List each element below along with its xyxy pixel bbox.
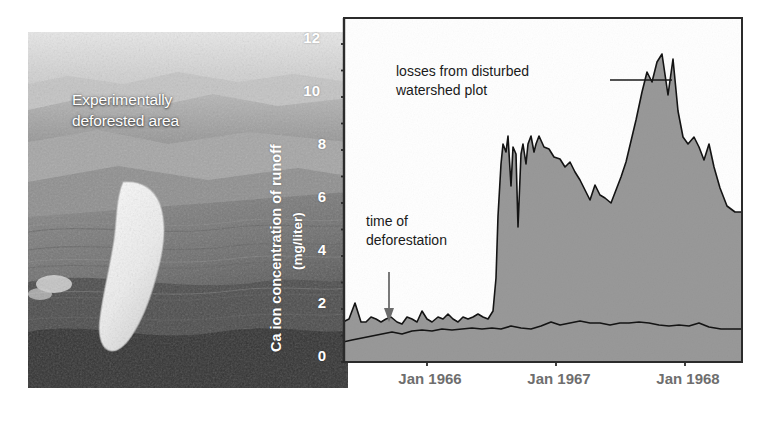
photo-caption: Experimentally deforested area	[72, 89, 302, 131]
y-tick-label-4: 4	[300, 241, 326, 258]
x-tick-label-jan-1966: Jan 1966	[398, 370, 461, 387]
y-tick-label-10: 10	[294, 82, 320, 99]
annotation-losses-line1: losses from disturbed	[396, 62, 529, 81]
y-tick-label-12: 12	[294, 29, 320, 46]
x-tick-label-jan-1968: Jan 1968	[656, 370, 719, 387]
annotation-losses-line2: watershed plot	[396, 81, 529, 100]
annotation-time-line1: time of	[366, 212, 447, 231]
annotation-losses-from-disturbed: losses from disturbed watershed plot	[396, 62, 529, 100]
y-tick-label-8: 8	[300, 135, 326, 152]
photo-caption-line2: deforested area	[72, 110, 302, 131]
figure-root: Experimentally deforested area	[0, 0, 777, 421]
photo-caption-line1: Experimentally	[72, 89, 302, 110]
annotation-time-of-deforestation: time of deforestation	[366, 212, 447, 250]
x-tick-label-jan-1967: Jan 1967	[527, 370, 590, 387]
y-tick-label-6: 6	[300, 188, 326, 205]
y-tick-label-2: 2	[300, 294, 326, 311]
annotation-time-line2: deforestation	[366, 231, 447, 250]
y-tick-label-0: 0	[300, 347, 326, 364]
